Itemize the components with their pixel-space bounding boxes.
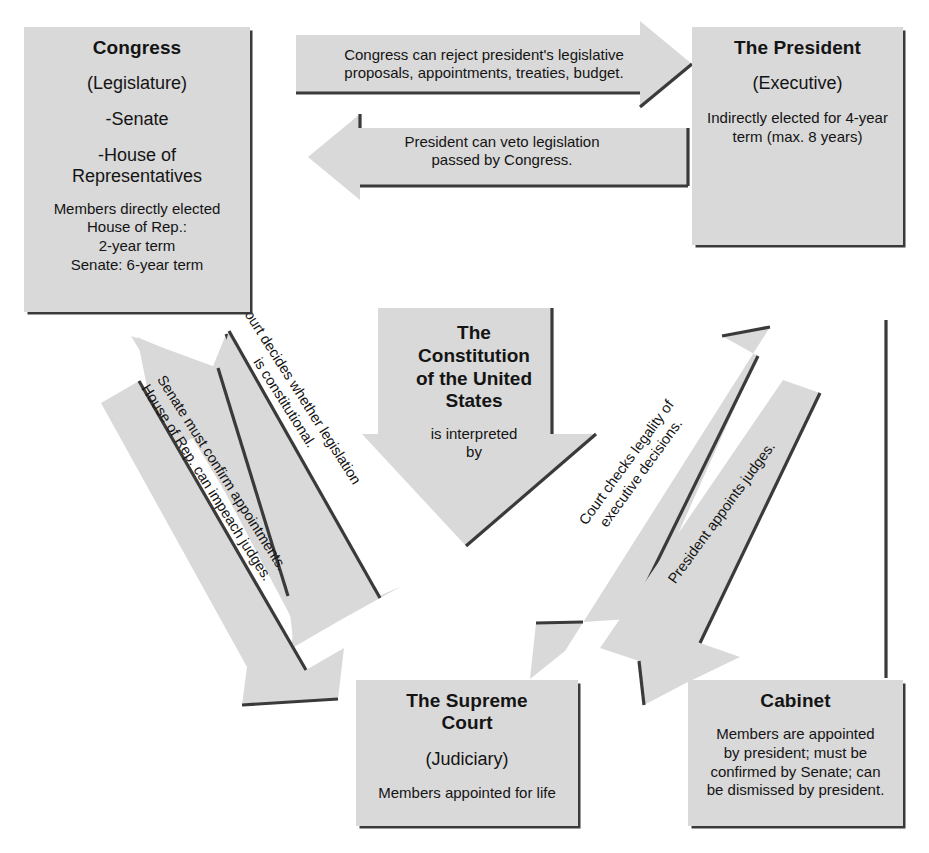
cabinet-body: Members are appointed by president; must… [696, 725, 895, 799]
president-subtitle: (Executive) [700, 73, 895, 95]
president-body: Indirectly elected for 4-year term (max.… [700, 109, 895, 146]
supreme-court-subtitle: (Judiciary) [364, 749, 570, 771]
box-supreme-court: The Supreme Court (Judiciary) Members ap… [356, 680, 578, 826]
constitution-subtitle: is interpreted by [381, 425, 567, 462]
constitution-label: The Constitution of the United States is… [381, 322, 567, 462]
arrow-label-congress-rejects: Congress can reject president's legislat… [306, 46, 662, 83]
president-title: The President [700, 37, 895, 59]
supreme-court-title: The Supreme Court [364, 690, 570, 735]
cabinet-title: Cabinet [696, 690, 895, 712]
constitution-title: The Constitution of the United States [381, 322, 567, 413]
congress-title: Congress [32, 37, 242, 59]
congress-item-house: -House of Representatives [32, 145, 242, 188]
diagram-canvas: Congress can reject president's legislat… [0, 0, 929, 853]
congress-body: Members directly elected House of Rep.: … [32, 200, 242, 274]
congress-item-senate: -Senate [32, 109, 242, 131]
box-congress: Congress (Legislature) -Senate -House of… [24, 27, 250, 312]
congress-subtitle: (Legislature) [32, 73, 242, 95]
box-cabinet: Cabinet Members are appointed by preside… [688, 680, 903, 826]
box-president: The President (Executive) Indirectly ele… [692, 27, 903, 245]
supreme-court-body: Members appointed for life [364, 784, 570, 803]
arrow-label-president-vetoes: President can veto legislation passed by… [352, 133, 652, 170]
